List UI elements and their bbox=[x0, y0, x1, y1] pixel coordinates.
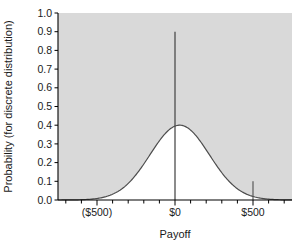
x-axis-tick-labels: ($500)$0$500 bbox=[82, 206, 265, 218]
probability-distribution-chart: 0.00.10.20.30.40.50.60.70.80.91.0 ($500)… bbox=[0, 0, 305, 245]
y-axis-tick-labels: 0.00.10.20.30.40.50.60.70.80.91.0 bbox=[37, 7, 52, 206]
y-tick-label: 0.3 bbox=[37, 138, 52, 150]
x-tick-label: $500 bbox=[241, 206, 265, 218]
y-tick-label: 0.0 bbox=[37, 194, 52, 206]
y-tick-label: 0.9 bbox=[37, 25, 52, 37]
y-tick-label: 0.5 bbox=[37, 100, 52, 112]
x-tick-label: ($500) bbox=[82, 206, 112, 218]
x-tick-label: $0 bbox=[169, 206, 181, 218]
chart-container: 0.00.10.20.30.40.50.60.70.80.91.0 ($500)… bbox=[0, 0, 305, 245]
y-tick-label: 1.0 bbox=[37, 7, 52, 19]
x-axis-title: Payoff bbox=[160, 228, 192, 240]
y-tick-label: 0.2 bbox=[37, 156, 52, 168]
y-tick-label: 0.7 bbox=[37, 63, 52, 75]
y-tick-label: 0.8 bbox=[37, 44, 52, 56]
y-tick-label: 0.4 bbox=[37, 119, 52, 131]
x-axis-ticks bbox=[66, 200, 284, 206]
y-tick-label: 0.1 bbox=[37, 175, 52, 187]
y-axis-title: Probability (for discrete distribution) bbox=[2, 20, 14, 192]
y-tick-label: 0.6 bbox=[37, 81, 52, 93]
